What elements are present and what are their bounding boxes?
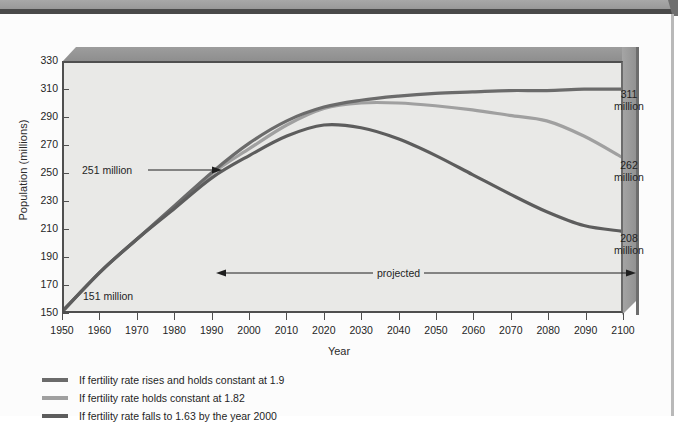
y-tick-label-210: 210 <box>32 222 58 234</box>
x-tick-mark-1980 <box>174 313 175 320</box>
legend-label-3: If fertility rate falls to 1.63 by the y… <box>79 410 277 422</box>
y-tick-mark-290 <box>62 117 69 118</box>
annotation-311-value: 311 <box>604 88 654 100</box>
x-tick-label-2100: 2100 <box>603 324 643 336</box>
y-tick-mark-170 <box>62 285 69 286</box>
x-tick-mark-2000 <box>249 313 250 320</box>
y-tick-mark-210 <box>62 229 69 230</box>
x-tick-mark-2090 <box>586 313 587 320</box>
x-tick-label-2020: 2020 <box>304 324 344 336</box>
projected-label: projected <box>373 267 424 279</box>
y-tick-label-310: 310 <box>32 82 58 94</box>
x-tick-label-2040: 2040 <box>379 324 419 336</box>
x-tick-label-2080: 2080 <box>528 324 568 336</box>
x-tick-label-1980: 1980 <box>154 324 194 336</box>
x-tick-mark-1960 <box>99 313 100 320</box>
y-tick-mark-190 <box>62 257 69 258</box>
x-tick-label-2090: 2090 <box>566 324 606 336</box>
x-tick-mark-1950 <box>62 313 63 320</box>
y-tick-mark-150 <box>62 313 69 314</box>
y-tick-label-270: 270 <box>32 138 58 150</box>
x-tick-mark-2050 <box>436 313 437 320</box>
annotation-251-text: 251 million <box>82 164 132 176</box>
x-tick-label-2060: 2060 <box>453 324 493 336</box>
x-tick-mark-1990 <box>212 313 213 320</box>
legend-label-1: If fertility rate rises and holds consta… <box>79 374 284 386</box>
annotation-251-arrow <box>146 164 222 176</box>
annotation-262-million: 262 million <box>604 159 654 183</box>
y-tick-mark-230 <box>62 201 69 202</box>
legend-label-2: If fertility rate holds constant at 1.82 <box>79 392 245 404</box>
x-tick-label-2030: 2030 <box>341 324 381 336</box>
x-tick-label-2010: 2010 <box>266 324 306 336</box>
x-tick-mark-2080 <box>548 313 549 320</box>
y-tick-label-170: 170 <box>32 278 58 290</box>
x-tick-mark-2030 <box>361 313 362 320</box>
y-tick-label-250: 250 <box>32 166 58 178</box>
x-tick-mark-2100 <box>623 313 624 320</box>
annotation-208-unit: million <box>604 244 654 256</box>
legend-item-1: If fertility rate rises and holds consta… <box>42 372 442 388</box>
x-tick-label-1950: 1950 <box>42 324 82 336</box>
annotation-262-value: 262 <box>604 159 654 171</box>
x-tick-label-1990: 1990 <box>192 324 232 336</box>
annotation-151-million: 151 million <box>83 290 133 302</box>
x-tick-label-2000: 2000 <box>229 324 269 336</box>
legend-swatch-3 <box>42 414 68 418</box>
x-tick-mark-2020 <box>324 313 325 320</box>
y-tick-label-330: 330 <box>32 54 58 66</box>
annotation-262-unit: million <box>604 171 654 183</box>
y-tick-label-150: 150 <box>32 306 58 318</box>
annotation-151-text: 151 million <box>83 290 133 302</box>
x-tick-label-1960: 1960 <box>79 324 119 336</box>
y-tick-mark-270 <box>62 145 69 146</box>
legend-swatch-1 <box>42 378 68 382</box>
annotation-311-million: 311 million <box>604 88 654 112</box>
annotation-208-million: 208 million <box>604 232 654 256</box>
annotation-251-million: 251 million <box>82 164 132 176</box>
annotation-208-value: 208 <box>604 232 654 244</box>
y-tick-mark-310 <box>62 89 69 90</box>
x-tick-mark-1970 <box>137 313 138 320</box>
y-tick-label-290: 290 <box>32 110 58 122</box>
x-tick-mark-2010 <box>286 313 287 320</box>
x-tick-label-2070: 2070 <box>491 324 531 336</box>
projected-range-arrow <box>216 267 636 281</box>
y-tick-label-190: 190 <box>32 250 58 262</box>
population-projection-chart: Population (millions) 330310290270250230… <box>0 14 678 416</box>
series-line-3 <box>64 125 621 310</box>
y-axis-title: Population (millions) <box>17 95 29 245</box>
chart-legend: If fertility rate rises and holds consta… <box>42 372 442 426</box>
legend-item-2: If fertility rate holds constant at 1.82 <box>42 390 442 406</box>
chart-3d-top-face <box>62 47 637 62</box>
annotation-311-unit: million <box>604 100 654 112</box>
y-tick-label-230: 230 <box>32 194 58 206</box>
legend-item-3: If fertility rate falls to 1.63 by the y… <box>42 408 442 424</box>
x-tick-mark-2040 <box>399 313 400 320</box>
legend-swatch-2 <box>42 396 68 400</box>
x-tick-mark-2060 <box>473 313 474 320</box>
x-tick-label-2050: 2050 <box>416 324 456 336</box>
y-tick-mark-250 <box>62 173 69 174</box>
x-tick-label-1970: 1970 <box>117 324 157 336</box>
x-axis-title: Year <box>0 345 678 357</box>
x-tick-mark-2070 <box>511 313 512 320</box>
